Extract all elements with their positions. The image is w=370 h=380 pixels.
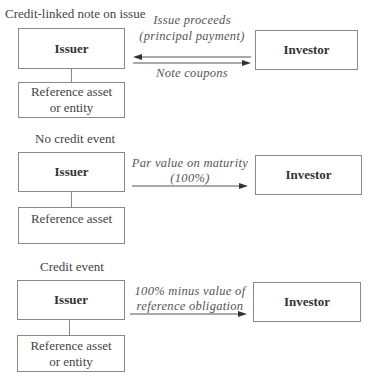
reference-label-line-1: Reference asset [31, 84, 112, 100]
arrow-right-icon [130, 309, 247, 321]
investor-label: Investor [284, 294, 330, 310]
flow-label-note-coupons: Note coupons [133, 66, 251, 81]
arrow-right-icon [132, 181, 248, 193]
investor-box: Investor [255, 30, 358, 70]
connector-line [71, 69, 72, 83]
investor-label: Investor [283, 42, 329, 58]
reference-label-line-2: or entity [49, 354, 93, 370]
reference-label-line-1: Reference asset [30, 338, 111, 354]
reference-asset-box: Reference asset or entity [18, 82, 125, 118]
flow-label-issue-proceeds: Issue proceeds [133, 13, 251, 28]
reference-asset-box: Reference asset or entity [17, 335, 125, 372]
section-heading: Credit-linked note on issue [5, 6, 145, 22]
section-heading: No credit event [35, 131, 115, 147]
issuer-box: Issuer [18, 28, 125, 69]
investor-label: Investor [285, 167, 331, 183]
issuer-box: Issuer [17, 280, 125, 320]
flow-label-par-value: Par value on maturity [130, 156, 250, 171]
reference-label-line-2: or entity [50, 100, 94, 116]
investor-box: Investor [253, 282, 361, 322]
issuer-label: Issuer [55, 41, 89, 57]
reference-label-line-1: Reference asset [31, 211, 112, 227]
issuer-label: Issuer [55, 164, 89, 180]
reference-asset-box: Reference asset [18, 207, 125, 244]
section-heading: Credit event [40, 259, 104, 275]
flow-label-principal-payment: (principal payment) [133, 29, 251, 44]
connector-line [71, 192, 72, 207]
issuer-box: Issuer [18, 152, 125, 192]
flow-label-100-minus-value: 100% minus value of [128, 284, 252, 299]
connector-line [69, 320, 70, 335]
issuer-label: Issuer [54, 292, 88, 308]
investor-box: Investor [255, 155, 362, 195]
